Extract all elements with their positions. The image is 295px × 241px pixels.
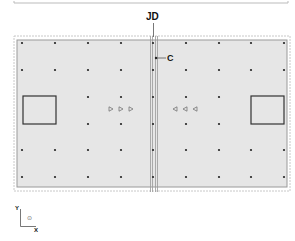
column-dot bbox=[120, 42, 122, 44]
column-dot bbox=[250, 42, 252, 44]
column-dot bbox=[87, 42, 89, 44]
column-dot bbox=[152, 42, 154, 44]
column-dot bbox=[218, 69, 220, 71]
column-dot bbox=[152, 123, 154, 125]
column-dot bbox=[250, 69, 252, 71]
column-dot bbox=[120, 176, 122, 178]
column-dot bbox=[250, 149, 252, 151]
column-dot bbox=[185, 96, 187, 98]
column-dot bbox=[152, 69, 154, 71]
column-dot bbox=[152, 96, 154, 98]
column-dot bbox=[185, 69, 187, 71]
joint-label: JD bbox=[146, 11, 159, 22]
column-dot bbox=[54, 69, 56, 71]
column-dot bbox=[87, 96, 89, 98]
column-dot bbox=[218, 176, 220, 178]
column-dot bbox=[87, 69, 89, 71]
slab bbox=[17, 40, 287, 187]
column-dot bbox=[152, 149, 154, 151]
column-dot bbox=[54, 149, 56, 151]
column-dot bbox=[21, 42, 23, 44]
column-dot bbox=[54, 42, 56, 44]
axis-x-label: X bbox=[34, 227, 38, 233]
column-dot bbox=[185, 42, 187, 44]
column-dot bbox=[54, 176, 56, 178]
column-dot bbox=[120, 96, 122, 98]
column-dot bbox=[185, 149, 187, 151]
column-dot bbox=[283, 149, 285, 151]
axis-y-label: Y bbox=[15, 205, 19, 211]
column-label: C bbox=[167, 53, 174, 63]
column-dot bbox=[218, 96, 220, 98]
column-dot bbox=[21, 176, 23, 178]
column-dot bbox=[283, 69, 285, 71]
column-dot bbox=[218, 149, 220, 151]
top-frame bbox=[14, 1, 288, 3]
floor-plan-diagram bbox=[0, 0, 295, 241]
column-dot bbox=[87, 149, 89, 151]
column-dot bbox=[283, 176, 285, 178]
column-dot bbox=[185, 123, 187, 125]
axis-origin-icon: ⊙ bbox=[27, 214, 32, 221]
column-dot bbox=[87, 123, 89, 125]
column-dot bbox=[185, 176, 187, 178]
column-dot bbox=[152, 176, 154, 178]
column-dot bbox=[218, 123, 220, 125]
column-dot bbox=[120, 123, 122, 125]
column-dot bbox=[283, 42, 285, 44]
column-dot bbox=[21, 149, 23, 151]
column-dot bbox=[120, 69, 122, 71]
column-dot bbox=[218, 42, 220, 44]
column-dot bbox=[250, 176, 252, 178]
column-dot bbox=[21, 69, 23, 71]
column-dot bbox=[87, 176, 89, 178]
column-dot bbox=[120, 149, 122, 151]
